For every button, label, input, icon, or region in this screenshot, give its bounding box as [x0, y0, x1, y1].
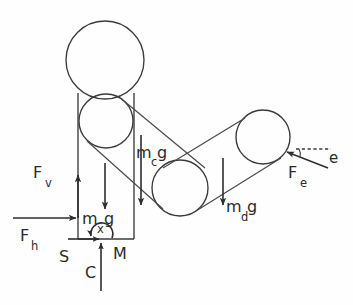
- force-mdg-tail: g: [247, 197, 257, 216]
- force-fv-subscript: v: [45, 176, 52, 190]
- free-body-diagram-svg: F v F h m x g m c g m d g F e e S C: [0, 0, 353, 305]
- force-fv-label: F: [33, 163, 42, 182]
- force-s-label: S: [59, 247, 69, 266]
- force-mcg-label: m: [136, 143, 152, 162]
- moment-m-label: M: [113, 244, 127, 263]
- force-fh-label: F: [20, 226, 29, 245]
- angle-label-e: e: [329, 149, 338, 167]
- middle-pulley-circle: [152, 160, 208, 216]
- force-fe-label: F: [288, 163, 297, 182]
- force-fh-subscript: h: [31, 239, 38, 253]
- angle-arc: [299, 149, 300, 157]
- link-c-lower-tangent: [87, 141, 163, 209]
- physics-diagram-canvas: F v F h m x g m c g m d g F e e S C: [0, 0, 353, 305]
- force-mdg-label: m: [226, 197, 242, 216]
- force-mcg-tail: g: [157, 143, 167, 162]
- force-fe-subscript: e: [300, 176, 307, 190]
- force-c-label: C: [85, 263, 96, 282]
- head-circle: [66, 21, 144, 99]
